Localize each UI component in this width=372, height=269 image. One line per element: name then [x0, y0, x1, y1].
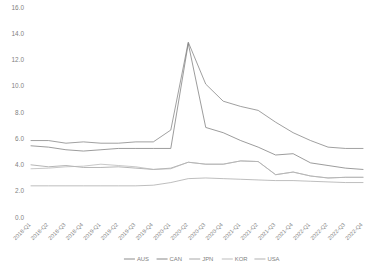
legend-label-jpn: JPN	[202, 256, 213, 262]
x-axis-tick-label: 2022-Q4	[344, 221, 364, 241]
series-lines-group	[31, 42, 363, 186]
y-axis-tick-label: 4.0	[15, 161, 24, 168]
x-axis-tick-label: 2020-Q3	[187, 221, 207, 241]
legend-label-kor: KOR	[235, 256, 248, 262]
x-axis-tick-label: 2018-Q1	[12, 221, 32, 241]
x-axis-tick-label: 2019-Q1	[82, 221, 102, 241]
legend-label-aus: AUS	[137, 256, 149, 262]
x-axis-tick-label: 2022-Q3	[327, 221, 347, 241]
x-axis-tick-label: 2021-Q3	[257, 221, 277, 241]
x-axis-tick-label: 2021-Q4	[274, 221, 294, 241]
y-axis-tick-labels: 0.02.04.06.08.010.012.014.016.0	[12, 4, 25, 221]
x-axis-tick-label: 2020-Q2	[169, 221, 189, 241]
y-axis-tick-label: 10.0	[12, 82, 25, 89]
y-axis-tick-label: 12.0	[12, 56, 25, 63]
x-axis-tick-label: 2022-Q1	[292, 221, 312, 241]
x-axis-tick-label: 2019-Q3	[117, 221, 137, 241]
x-axis-tick-label: 2019-Q2	[99, 221, 119, 241]
x-axis-tick-label: 2021-Q2	[239, 221, 259, 241]
x-axis-tick-label: 2018-Q4	[64, 221, 84, 241]
legend-label-usa: USA	[267, 256, 279, 262]
series-line-aus	[31, 42, 363, 148]
y-axis-tick-label: 6.0	[15, 135, 24, 142]
series-line-usa	[31, 178, 363, 186]
legend-label-can: CAN	[170, 256, 182, 262]
x-axis-tick-label: 2020-Q1	[152, 221, 172, 241]
x-axis-tick-label: 2021-Q1	[222, 221, 242, 241]
y-axis-tick-label: 8.0	[15, 109, 24, 116]
x-axis-tick-label: 2020-Q4	[204, 221, 224, 241]
chart-canvas: 0.02.04.06.08.010.012.014.016.0 2018-Q12…	[0, 0, 372, 269]
y-axis-tick-label: 2.0	[15, 187, 24, 194]
line-chart: 0.02.04.06.08.010.012.014.016.0 2018-Q12…	[0, 0, 372, 269]
x-axis-tick-labels: 2018-Q12018-Q22018-Q32018-Q42019-Q12019-…	[12, 221, 364, 241]
x-axis-tick-label: 2022-Q2	[309, 221, 329, 241]
x-axis-tick-label: 2018-Q2	[30, 221, 50, 241]
y-axis-tick-label: 0.0	[15, 214, 24, 221]
y-axis-tick-label: 16.0	[12, 4, 25, 11]
x-axis-tick-label: 2018-Q3	[47, 221, 67, 241]
y-axis-tick-label: 14.0	[12, 30, 25, 37]
x-axis-tick-label: 2019-Q4	[134, 221, 154, 241]
chart-legend: AUSCANJPNKORUSA	[124, 256, 280, 262]
